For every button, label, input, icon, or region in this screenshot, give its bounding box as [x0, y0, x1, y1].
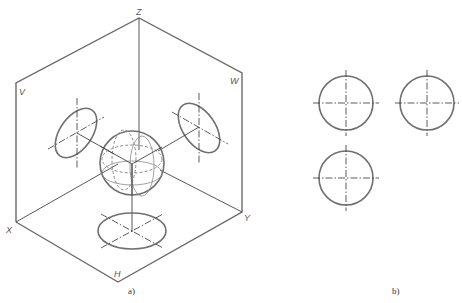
x-axis-back [16, 164, 118, 222]
sphere-meridian [130, 136, 154, 196]
y-axis-back [160, 170, 242, 212]
projection-box [16, 18, 242, 282]
side-view [395, 70, 459, 136]
front-view [313, 70, 379, 136]
label-h: H [114, 269, 121, 279]
w-plane-projection [158, 93, 228, 163]
label-v: V [19, 87, 26, 97]
v-centerline-diagonal [48, 117, 104, 149]
w-projector [158, 127, 199, 151]
caption-a: a) [128, 286, 135, 296]
sphere-projection-diagram: Z V W X Y H a) b) [0, 0, 462, 303]
box-outline [16, 18, 242, 282]
orthographic-views [313, 70, 459, 211]
label-w: W [230, 76, 240, 86]
top-view [313, 145, 379, 211]
sphere [100, 130, 164, 196]
caption-b: b) [392, 286, 400, 296]
v-plane-projection [47, 98, 114, 168]
label-z: Z [135, 7, 142, 17]
label-y: Y [244, 213, 251, 223]
sphere-axis-y [132, 147, 162, 164]
v-ellipse [47, 101, 105, 165]
label-x: X [5, 225, 13, 235]
sphere-axis-x [100, 146, 132, 164]
